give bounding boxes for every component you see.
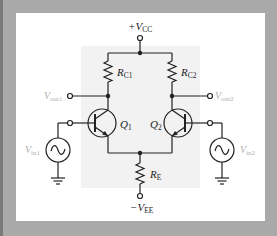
vout1-junction — [106, 94, 110, 98]
vee-terminal — [138, 194, 143, 199]
circuit-diagram: +VCC RC1 RC2 Q1 Q2 RE −VEE Vout1 Vout2 V… — [0, 0, 277, 236]
vcc-label: +VCC — [128, 20, 152, 34]
vin1-label: Vin1 — [25, 144, 41, 157]
vee-label: −VEE — [130, 201, 154, 215]
vcc-terminal — [138, 36, 143, 41]
vout1-terminal — [68, 94, 73, 99]
vin2-ground-icon — [215, 178, 229, 184]
vin1-ground-icon — [51, 178, 65, 184]
vin1-source — [46, 138, 70, 162]
vcc-junction — [138, 51, 142, 55]
emitter-junction — [138, 151, 142, 155]
vin2-source — [210, 138, 234, 162]
vout2-junction — [170, 94, 174, 98]
vout1-label: Vout1 — [44, 90, 63, 103]
vout2-terminal — [208, 94, 213, 99]
vout2-label: Vout2 — [215, 90, 234, 103]
q1-base-terminal — [68, 121, 73, 126]
q2-base-terminal — [208, 121, 213, 126]
vin2-label: Vin2 — [240, 144, 256, 157]
